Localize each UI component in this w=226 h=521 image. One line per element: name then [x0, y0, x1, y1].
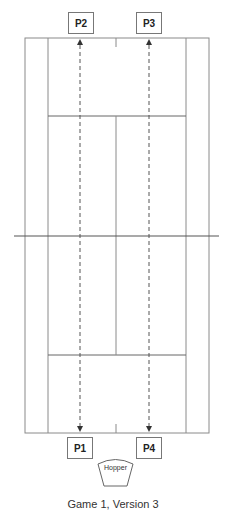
player-p2-box: P2 [68, 12, 94, 34]
player-p4-box: P4 [136, 437, 162, 459]
diagram-caption: Game 1, Version 3 [0, 498, 226, 510]
arrow-down-icon [146, 426, 152, 432]
arrow-up-icon [77, 39, 83, 45]
player-label: P1 [74, 443, 86, 454]
player-label: P3 [143, 18, 155, 29]
tennis-court-diagram: Hopper [0, 0, 226, 521]
hopper: Hopper [98, 460, 133, 487]
arrow-down-icon [77, 426, 83, 432]
player-label: P4 [143, 443, 155, 454]
player-p1-box: P1 [67, 437, 93, 459]
hopper-label: Hopper [104, 464, 128, 472]
player-p3-box: P3 [136, 12, 162, 34]
arrow-up-icon [146, 39, 152, 45]
player-label: P2 [75, 18, 87, 29]
